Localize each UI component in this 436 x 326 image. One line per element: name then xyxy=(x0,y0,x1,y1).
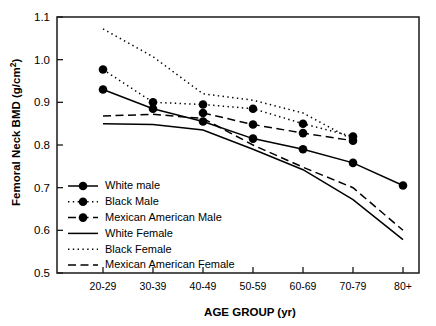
x-tick-label: 20-29 xyxy=(90,280,117,292)
y-tick-label: 1.0 xyxy=(34,54,50,66)
figure-container: 1.11.00.90.80.70.60.5 20-2930-3940-4950-… xyxy=(0,0,436,326)
y-tick-label: 0.5 xyxy=(34,267,50,279)
x-tick-label: 60-69 xyxy=(290,280,317,292)
y-tick-label: 0.7 xyxy=(34,182,50,194)
legend-label: Black Male xyxy=(105,195,159,207)
y-axis-title-tail: ) xyxy=(10,59,22,63)
legend-swatch-marker xyxy=(79,182,88,191)
data-point xyxy=(349,159,358,168)
bmd-line-chart: 1.11.00.90.80.70.60.5 20-2930-3940-4950-… xyxy=(0,0,436,326)
y-tick-label: 1.1 xyxy=(34,11,50,23)
data-point xyxy=(99,85,108,94)
x-tick-label: 80+ xyxy=(394,280,412,292)
x-tick-label: 70-79 xyxy=(340,280,367,292)
legend-label: White male xyxy=(105,179,160,191)
data-point xyxy=(399,181,408,190)
x-tick-label: 30-39 xyxy=(140,280,167,292)
legend-label: Black Female xyxy=(105,243,172,255)
x-axis-title: AGE GROUP (yr) xyxy=(204,306,296,318)
data-point xyxy=(299,145,308,154)
data-point xyxy=(299,129,308,138)
data-point xyxy=(149,98,158,107)
data-point xyxy=(199,109,208,118)
svg-text:Femoral Neck BMD (g/cm2): Femoral Neck BMD (g/cm2) xyxy=(8,59,22,206)
x-tick-label: 40-49 xyxy=(190,280,217,292)
y-tick-label: 0.8 xyxy=(34,139,50,151)
data-point xyxy=(249,120,258,129)
y-tick-label: 0.9 xyxy=(34,96,50,108)
data-point xyxy=(199,100,208,109)
legend-label: Mexican American Male xyxy=(105,211,222,223)
data-point xyxy=(99,65,108,74)
legend-label: Mexican American Female xyxy=(105,258,235,270)
legend-label: White Female xyxy=(105,227,173,239)
legend-swatch-marker xyxy=(79,198,88,207)
legend-swatch-marker xyxy=(79,213,88,222)
data-point xyxy=(299,119,308,128)
y-axis-title-main: Femoral Neck BMD (g/cm xyxy=(10,67,22,206)
data-point xyxy=(249,104,258,113)
y-axis-title: Femoral Neck BMD (g/cm2) xyxy=(8,59,22,206)
y-tick-label: 0.6 xyxy=(34,224,50,236)
x-tick-label: 50-59 xyxy=(240,280,267,292)
data-point xyxy=(249,134,258,143)
